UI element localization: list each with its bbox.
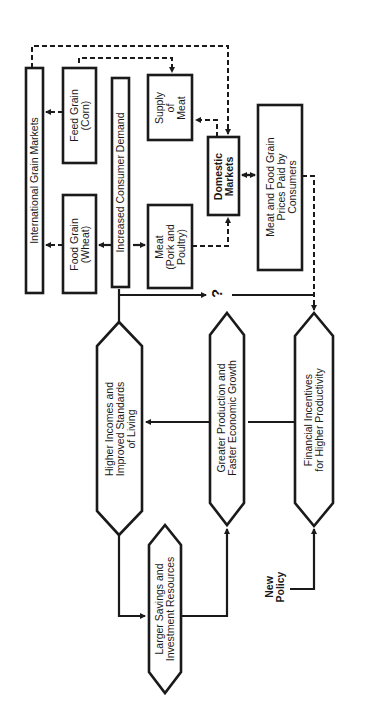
edge-prices-to-incentives — [302, 176, 314, 310]
edge-domestic-to-supply — [196, 120, 217, 137]
consumer-prices-box — [258, 105, 302, 270]
food-grain-box — [63, 195, 96, 293]
intl-grain-markets-box — [26, 68, 43, 293]
question-mark: ? — [208, 289, 225, 298]
higher-incomes-hexagon — [97, 322, 142, 535]
larger-savings-hexagon — [149, 525, 181, 693]
greater-production-hexagon — [210, 313, 244, 525]
feed-grain-box — [63, 68, 96, 163]
consumer-demand-box — [112, 78, 129, 287]
diagram-canvas — [0, 0, 368, 718]
domestic-markets-box — [208, 137, 239, 215]
edge-incomes-to-savings — [119, 535, 145, 616]
financial-incentives-hexagon — [295, 313, 333, 526]
meat-box — [148, 205, 192, 288]
edge-feed-to-supply — [79, 58, 172, 72]
edge-meat-to-domestic — [192, 218, 228, 246]
edge-savings-to-production — [181, 529, 227, 616]
edge-new-policy — [290, 529, 314, 589]
supply-of-meat-box — [148, 75, 192, 140]
flow-diagram: International Grain Markets Feed Grain (… — [0, 0, 368, 718]
